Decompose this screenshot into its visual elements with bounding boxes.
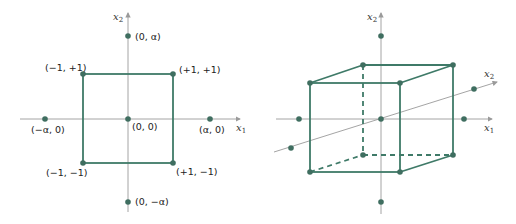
point-label: (−1, +1) xyxy=(45,62,86,73)
point-label: (−α, 0) xyxy=(31,124,65,135)
point-label: (+1, +1) xyxy=(179,64,220,75)
point-label: (0, −α) xyxy=(135,196,169,207)
point-label: (+1, −1) xyxy=(176,166,217,177)
left-diagram: (0, α) (−1, +1) (+1, +1) (−α, 0) (0, 0) … xyxy=(20,11,246,212)
point-label: (0, 0) xyxy=(132,121,158,132)
x3-axis-label: x2 xyxy=(484,68,494,81)
point-label: (α, 0) xyxy=(199,124,225,135)
point-label: (−1, −1) xyxy=(46,167,87,178)
x2-axis-label: x2 xyxy=(367,11,377,24)
design-diagrams: (0, α) (−1, +1) (+1, +1) (−α, 0) (0, 0) … xyxy=(0,0,516,224)
point-label: (0, α) xyxy=(135,31,161,42)
x2-axis-label: x2 xyxy=(113,11,123,24)
x1-axis-label: x1 xyxy=(236,122,246,135)
right-diagram: x1 x2 x2 xyxy=(274,11,497,214)
x1-axis-label: x1 xyxy=(484,122,494,135)
